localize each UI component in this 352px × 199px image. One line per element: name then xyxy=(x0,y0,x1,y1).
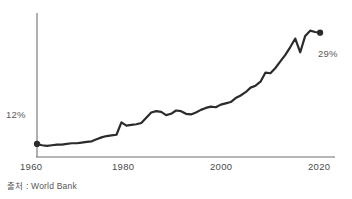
start-value-label: 12% xyxy=(6,109,26,120)
source-note: 출처 : World Bank xyxy=(7,179,77,191)
end-point-marker xyxy=(317,30,323,36)
chart-plot-area xyxy=(0,0,352,199)
start-point-marker xyxy=(34,141,40,147)
x-axis-tick-1980: 1980 xyxy=(112,161,134,172)
end-value-label: 29% xyxy=(318,48,338,59)
x-axis-tick-2020: 2020 xyxy=(308,161,330,172)
series-group xyxy=(34,30,323,147)
axes-group xyxy=(36,13,335,157)
x-axis-tick-1960: 1960 xyxy=(20,161,42,172)
data-line-share xyxy=(37,31,320,146)
x-axis-tick-2000: 2000 xyxy=(210,161,232,172)
line-chart-figure: 12% 29% 1960 1980 2000 2020 출처 : World B… xyxy=(0,0,352,199)
